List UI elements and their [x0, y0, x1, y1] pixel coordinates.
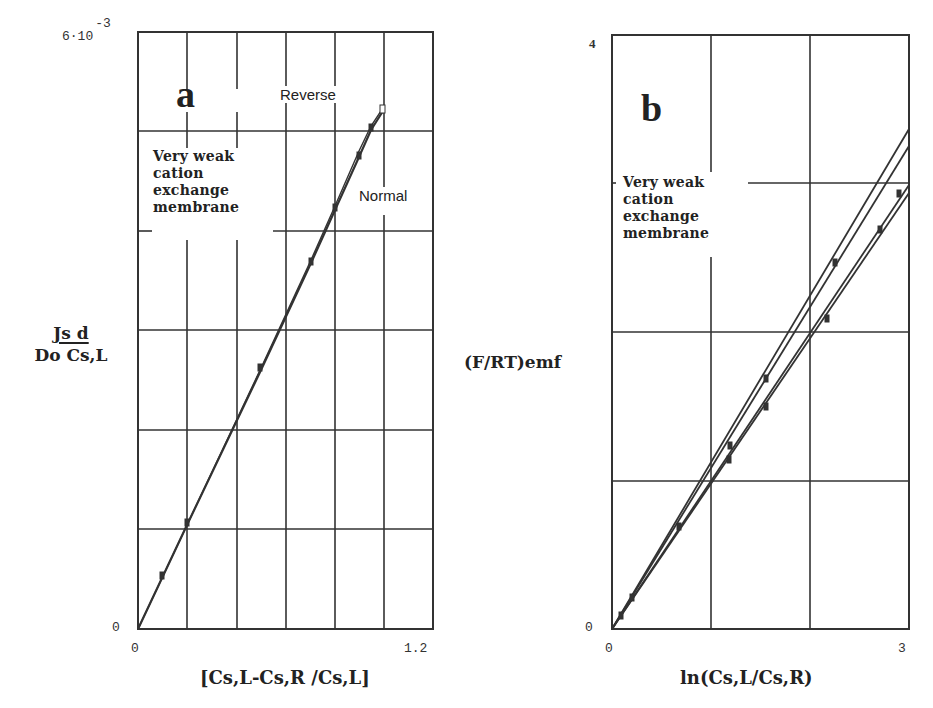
- panel-b-y-tick-zero: 0: [585, 620, 593, 635]
- panel-a-plot: [138, 32, 433, 629]
- panel-a-y-label-numerator: Js d: [28, 323, 114, 343]
- panel-a-y-tick-zero: 0: [112, 620, 120, 635]
- panel-a-annotation-line: Very weak: [153, 148, 239, 165]
- panel-a-membrane-annotation: Very weak cation exchange membrane: [153, 148, 243, 216]
- panel-b-annotation-line: membrane: [623, 225, 709, 242]
- panel-a-y-axis-label: Js d Do Cs,L: [28, 323, 114, 365]
- panel-a-x-axis-label: [Cs,L-Cs,R /Cs,L]: [200, 667, 370, 688]
- panel-a-x-tick-zero: 0: [131, 641, 139, 656]
- panel-b-x-tick-max: 3: [898, 641, 906, 656]
- panel-a-label-reverse: Reverse: [278, 86, 338, 103]
- panel-a-annotation-line: membrane: [153, 199, 239, 216]
- panel-a-x-tick-max: 1.2: [404, 641, 427, 656]
- panel-a-y-tick-exponent: -3: [95, 16, 111, 31]
- panel-b-y-tick-max: 4: [589, 36, 596, 52]
- panel-b-y-axis-label: (F/RT)emf: [464, 352, 561, 372]
- panel-a-y-tick-mantissa: 6·10: [62, 29, 93, 44]
- panel-b-annotation-line: Very weak: [623, 174, 709, 191]
- panel-a-annotation-line: exchange: [153, 182, 239, 199]
- panel-b-annotation-line: cation: [623, 191, 709, 208]
- panel-b-letter: b: [641, 86, 662, 130]
- panel-b-annotation-line: exchange: [623, 208, 709, 225]
- panel-b-x-tick-zero: 0: [605, 641, 613, 656]
- panel-a-letter: a: [176, 72, 195, 116]
- panel-b-x-axis-label: ln(Cs,L/Cs,R): [680, 667, 813, 688]
- panel-a-label-normal: Normal: [357, 187, 409, 204]
- panel-a-annotation-line: cation: [153, 165, 239, 182]
- panel-a-y-tick-max: 6·10-3: [62, 24, 111, 44]
- series-b-line-4: [612, 193, 909, 629]
- panel-a-y-label-denominator: Do Cs,L: [28, 345, 114, 365]
- panel-b-membrane-annotation: Very weak cation exchange membrane: [623, 174, 713, 242]
